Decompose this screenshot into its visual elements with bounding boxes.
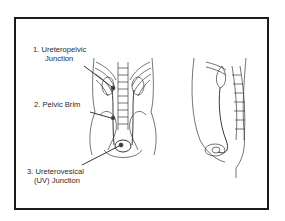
label-line: 1. Ureteropelvic	[33, 45, 86, 54]
label-line: (UV) Junction	[27, 176, 84, 185]
label-line: 2. Pelvic Brim	[34, 100, 80, 109]
label-ureterovesical-junction: 3. Ureterovesical (UV) Junction	[27, 167, 84, 185]
anterior-view-figure	[90, 58, 156, 158]
label-pelvic-brim: 2. Pelvic Brim	[34, 100, 80, 109]
label-ureteropelvic-junction: 1. Ureteropelvic Junction	[33, 45, 86, 63]
lateral-view-figure	[192, 58, 246, 178]
label-line: 3. Ureterovesical	[27, 167, 84, 176]
anatomy-illustration	[0, 0, 285, 221]
label-line: Junction	[33, 54, 86, 63]
